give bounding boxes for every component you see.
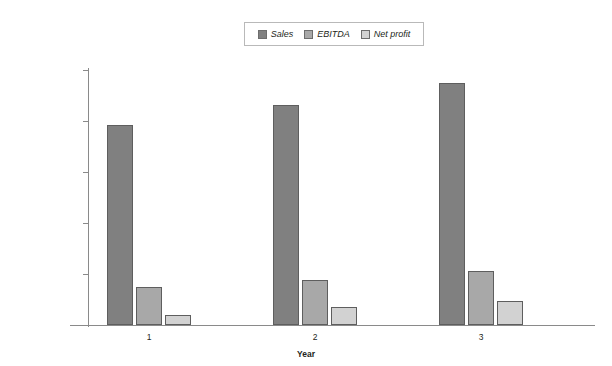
x-tick-label: 2 xyxy=(285,333,345,342)
legend-swatch-sales xyxy=(258,30,267,39)
legend-item-net-profit[interactable]: Net profit xyxy=(361,30,411,39)
y-tick-mark xyxy=(83,223,88,224)
plot-area: $0$200,000$400,000$600,000$800,000$1,000… xyxy=(88,70,586,325)
bar-sales-year-3[interactable] xyxy=(439,83,465,325)
y-tick-mark xyxy=(83,70,88,71)
bar-chart: Sales EBITDA Net profit $0$200,000$400,0… xyxy=(0,0,612,366)
x-tick-label: 3 xyxy=(451,333,511,342)
legend-label-ebitda: EBITDA xyxy=(317,30,350,39)
bar-ebitda-year-1[interactable] xyxy=(136,287,162,325)
x-axis-title: Year xyxy=(0,350,612,359)
bar-ebitda-year-2[interactable] xyxy=(302,280,328,325)
legend-swatch-net-profit xyxy=(361,30,370,39)
bar-ebitda-year-3[interactable] xyxy=(468,271,494,325)
bar-group xyxy=(273,70,357,325)
bar-sales-year-2[interactable] xyxy=(273,105,299,325)
y-tick-mark xyxy=(83,325,88,326)
bar-net-profit-year-2[interactable] xyxy=(331,307,357,325)
y-tick-mark xyxy=(83,172,88,173)
legend-label-net-profit: Net profit xyxy=(374,30,411,39)
bar-sales-year-1[interactable] xyxy=(107,125,133,325)
bar-net-profit-year-1[interactable] xyxy=(165,315,191,325)
bar-group xyxy=(439,70,523,325)
legend-swatch-ebitda xyxy=(304,30,313,39)
y-tick-mark xyxy=(83,274,88,275)
bar-net-profit-year-3[interactable] xyxy=(497,301,523,325)
bar-group xyxy=(107,70,191,325)
legend-item-sales[interactable]: Sales xyxy=(258,30,294,39)
legend-item-ebitda[interactable]: EBITDA xyxy=(304,30,350,39)
x-tick-label: 1 xyxy=(119,333,179,342)
y-tick-mark xyxy=(83,121,88,122)
x-axis-line xyxy=(70,325,595,326)
chart-legend: Sales EBITDA Net profit xyxy=(244,22,424,46)
legend-label-sales: Sales xyxy=(271,30,294,39)
